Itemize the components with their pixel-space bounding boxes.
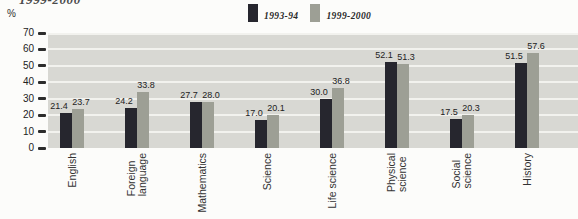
bar-1993-94 bbox=[190, 102, 202, 148]
y-tick bbox=[38, 130, 46, 133]
x-category-label: Physical science bbox=[386, 153, 408, 192]
gridline bbox=[48, 48, 578, 50]
bar-1993-94 bbox=[515, 63, 527, 148]
bar-value-label: 20.3 bbox=[462, 103, 480, 113]
chart-title-fragment: 1999-2000 bbox=[19, 0, 81, 8]
x-category-label: English bbox=[67, 153, 78, 187]
plot-area: 21.423.724.233.827.728.017.020.130.036.8… bbox=[48, 33, 578, 148]
bar-value-label: 23.7 bbox=[72, 97, 90, 107]
bar-value-label: 17.0 bbox=[245, 108, 263, 118]
bar-1999-2000 bbox=[397, 64, 409, 148]
legend-label-1999-2000: 1999-2000 bbox=[326, 5, 371, 21]
bar-value-label: 27.7 bbox=[180, 90, 198, 100]
bar-1993-94 bbox=[125, 108, 137, 148]
gridline bbox=[48, 81, 578, 83]
y-tick-label: 0 bbox=[6, 142, 34, 153]
bar-1999-2000 bbox=[72, 109, 84, 148]
y-tick bbox=[38, 147, 46, 150]
y-tick-label: 30 bbox=[6, 93, 34, 104]
x-category-label: Life science bbox=[327, 153, 338, 208]
gridline bbox=[48, 65, 578, 67]
y-tick-label: 60 bbox=[6, 43, 34, 54]
legend-label-1993-94: 1993-94 bbox=[264, 5, 298, 21]
gridline bbox=[48, 33, 578, 35]
bar-value-label: 24.2 bbox=[115, 96, 133, 106]
bar-1999-2000 bbox=[267, 115, 279, 148]
bar-1999-2000 bbox=[137, 92, 149, 148]
bar-value-label: 17.5 bbox=[440, 107, 458, 117]
y-tick-label: 20 bbox=[6, 109, 34, 120]
bar-value-label: 36.8 bbox=[332, 76, 350, 86]
chart-legend: 1993-94 1999-2000 bbox=[248, 4, 371, 22]
bar-1993-94 bbox=[60, 113, 72, 148]
legend-swatch-1999-2000 bbox=[310, 4, 320, 22]
bar-value-label: 21.4 bbox=[50, 101, 68, 111]
bar-1999-2000 bbox=[462, 115, 474, 148]
y-axis-unit-label: % bbox=[7, 8, 16, 19]
bar-1993-94 bbox=[255, 120, 267, 148]
bar-value-label: 57.6 bbox=[527, 41, 545, 51]
x-category-label: History bbox=[522, 153, 533, 186]
bar-chart-figure: 1999-2000 % 1993-94 1999-2000 21.423.724… bbox=[0, 0, 578, 219]
y-tick bbox=[38, 97, 46, 100]
bar-value-label: 51.5 bbox=[505, 51, 523, 61]
y-tick bbox=[38, 64, 46, 67]
legend-swatch-1993-94 bbox=[248, 4, 258, 22]
bar-1999-2000 bbox=[332, 88, 344, 148]
x-category-label: Science bbox=[262, 153, 273, 190]
y-tick-label: 10 bbox=[6, 126, 34, 137]
y-tick bbox=[38, 114, 46, 117]
y-tick-label: 40 bbox=[6, 76, 34, 87]
bar-value-label: 28.0 bbox=[202, 90, 220, 100]
y-tick-label: 70 bbox=[6, 27, 34, 38]
bar-1999-2000 bbox=[527, 53, 539, 148]
bar-value-label: 33.8 bbox=[137, 80, 155, 90]
bar-value-label: 52.1 bbox=[375, 50, 393, 60]
x-category-label: Mathematics bbox=[197, 153, 208, 213]
legend-item-1993-94: 1993-94 bbox=[248, 4, 298, 22]
bar-1993-94 bbox=[450, 119, 462, 148]
x-category-label: Foreign language bbox=[126, 153, 148, 196]
y-tick bbox=[38, 48, 46, 51]
bar-value-label: 20.1 bbox=[267, 103, 285, 113]
y-tick bbox=[38, 81, 46, 84]
bar-value-label: 51.3 bbox=[397, 52, 415, 62]
legend-item-1999-2000: 1999-2000 bbox=[310, 4, 371, 22]
bar-1999-2000 bbox=[202, 102, 214, 148]
y-tick-label: 50 bbox=[6, 60, 34, 71]
bar-value-label: 30.0 bbox=[310, 87, 328, 97]
x-category-label: Social science bbox=[451, 153, 473, 189]
bar-1993-94 bbox=[385, 62, 397, 148]
y-tick bbox=[38, 32, 46, 35]
bar-1993-94 bbox=[320, 99, 332, 148]
